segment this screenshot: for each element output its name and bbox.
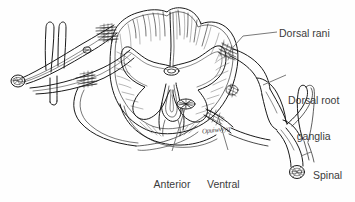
label-anterior-horn-cells: Anterior horn cells xyxy=(141,154,203,202)
label-anterior-horn-cells-line1: Anterior xyxy=(141,178,203,190)
label-dorsal-root-ganglia-line2: ganglia xyxy=(288,130,339,142)
label-spinal-nerve-line1: Spinal xyxy=(313,169,342,181)
label-spinal-nerve: Spinal nerve xyxy=(313,145,342,202)
spinal-cord-diagram: Dorsal rani Dorsal root ganglia Spinal n… xyxy=(0,0,355,202)
label-dorsal-root-ganglia-line1: Dorsal root xyxy=(288,94,339,106)
label-ventral-rani-line1: Ventral xyxy=(207,178,255,190)
anterior-horn-cell-cluster xyxy=(177,99,195,109)
label-dorsal-rani: Dorsal rani xyxy=(279,27,330,39)
label-ventral-rani: Ventral rani xyxy=(207,154,255,202)
